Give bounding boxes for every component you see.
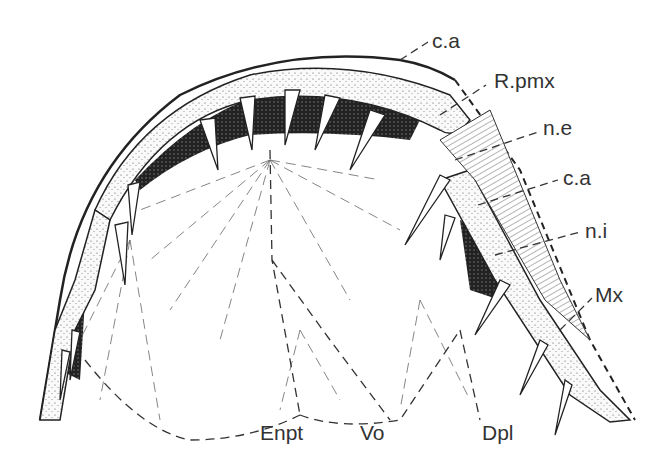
bone-sutures [85,150,480,440]
label-mx: Mx [595,284,623,305]
anatomical-figure: c.a R.pmx n.e c.a n.i Mx Enpt Vo Dpl [0,0,662,472]
label-ne: n.e [543,117,572,138]
label-ca-top: c.a [432,30,460,51]
premaxilla [95,68,470,220]
label-vo: Vo [360,422,385,443]
label-ca-mid: c.a [563,167,591,188]
label-dpl: Dpl [482,422,514,443]
label-ni: n.i [585,220,607,241]
jaw-drawing [0,0,662,472]
label-enpt: Enpt [260,422,303,443]
label-rpmx: R.pmx [494,70,555,91]
